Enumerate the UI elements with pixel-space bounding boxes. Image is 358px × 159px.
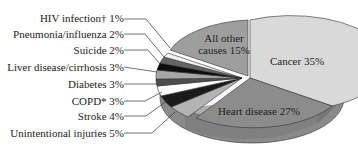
label-diabetes: Diabetes 3%: [68, 79, 124, 90]
label-hiv: HIV infection† 1%: [40, 13, 124, 24]
label-other-line1: All other: [194, 32, 254, 44]
label-liver: Liver disease/cirrhosis 3%: [7, 62, 124, 73]
label-injuries: Unintentional injuries 5%: [10, 128, 124, 139]
label-suicide: Suicide 2%: [74, 45, 124, 56]
label-pneumonia: Pneumonia/influenza 2%: [13, 29, 124, 40]
label-stroke: Stroke 4%: [78, 111, 124, 122]
label-cancer: Cancer 35%: [270, 55, 324, 67]
label-heart: Heart disease 27%: [218, 105, 300, 117]
label-other: All other causes 15%: [194, 32, 254, 56]
label-copd: COPD* 3%: [72, 96, 124, 107]
label-other-line2: causes 15%: [194, 44, 254, 56]
